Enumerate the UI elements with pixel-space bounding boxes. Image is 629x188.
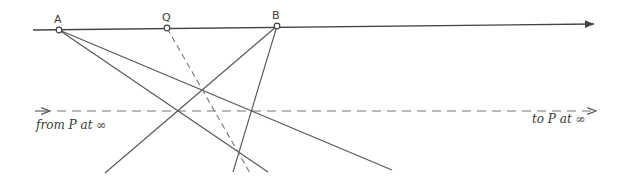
ray-from-a-1 bbox=[59, 30, 392, 170]
rays-group bbox=[59, 26, 392, 173]
point-q-label: Q bbox=[162, 11, 171, 24]
to-p-label: to P at ∞ bbox=[532, 112, 586, 126]
ray-from-q-4 bbox=[167, 28, 250, 173]
baseline-line bbox=[33, 24, 594, 30]
point-b-label: B bbox=[272, 9, 280, 22]
point-q-marker bbox=[164, 25, 170, 31]
projective-construction-diagram: AQB from P at ∞ to P at ∞ bbox=[0, 0, 629, 188]
point-a-label: A bbox=[54, 13, 62, 26]
from-p-label: from P at ∞ bbox=[35, 118, 106, 132]
ray-from-b-3 bbox=[233, 26, 277, 172]
point-b-marker bbox=[274, 23, 280, 29]
ray-from-b-2 bbox=[105, 26, 277, 173]
point-a-marker bbox=[56, 27, 62, 33]
